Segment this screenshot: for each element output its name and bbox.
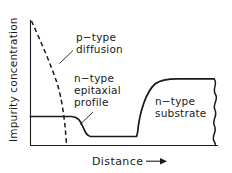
annotation-n-type-substrate-line2: substrate (155, 107, 207, 119)
annotation-n-type-epitaxial-line1: n−type (74, 72, 114, 84)
impurity-concentration-chart: p−type diffusion n−type epitaxial profil… (0, 0, 232, 173)
p-type-leader-line (60, 51, 74, 64)
substrate-break-edge-icon (213, 79, 216, 146)
x-axis-arrow-icon (160, 158, 167, 164)
annotation-n-type-epitaxial-line2: epitaxial (74, 84, 121, 96)
annotation-p-type-diffusion-line1: p−type (76, 31, 116, 43)
p-type-diffusion-curve (32, 21, 67, 145)
n-type-epitaxial-leader-line (80, 112, 93, 125)
annotation-n-type-epitaxial-line3: profile (74, 96, 109, 108)
x-axis-title: Distance (92, 155, 143, 168)
annotation-p-type-diffusion-line2: diffusion (76, 43, 123, 55)
y-axis-title: Impurity concentration (7, 17, 19, 142)
annotation-n-type-substrate-line1: n−type (155, 95, 195, 107)
